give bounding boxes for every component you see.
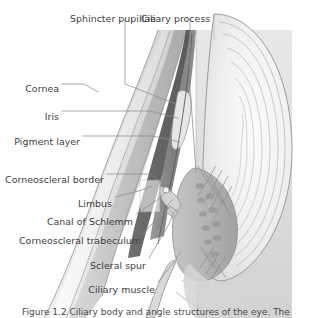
figure-caption: Figure 1.2 Ciliary body and angle struct… <box>22 307 302 318</box>
limbus-region <box>140 180 160 212</box>
label-limbus: Limbus <box>78 199 112 209</box>
leader-cornea <box>62 84 98 92</box>
label-ciliary-process: Ciliary process <box>141 14 210 24</box>
label-iris: Iris <box>45 112 59 122</box>
label-scleral-spur: Scleral spur <box>90 261 146 271</box>
label-corneoscleral-trabeculum: Corneoscleral trabeculum <box>19 236 141 246</box>
label-ciliary-muscle: Ciliary muscle <box>88 285 155 295</box>
label-pigment-layer: Pigment layer <box>14 137 80 147</box>
eye-anatomy-figure: Sphincter pupillae Ciliary process Corne… <box>0 0 315 318</box>
label-canal-of-schlemm: Canal of Schlemm <box>47 217 133 227</box>
eye-cross-section-illustration <box>0 0 315 318</box>
label-corneoscleral-border: Corneoscleral border <box>5 175 104 185</box>
label-cornea: Cornea <box>25 84 59 94</box>
